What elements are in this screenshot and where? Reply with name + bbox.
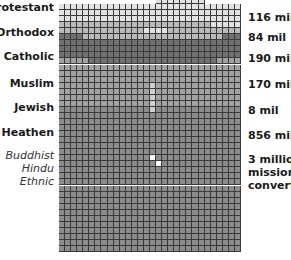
value-catholic: 190 mil: [248, 52, 291, 65]
value-jewish: 8 mil: [248, 104, 279, 117]
label-heathen: Heathen: [2, 126, 54, 139]
label-ethnic: Ethnic: [20, 175, 54, 188]
label-jewish: Jewish: [14, 101, 54, 114]
value-protestant: 116 mil: [248, 11, 291, 24]
waffle-grid: [59, 0, 241, 252]
label-hindu: Hindu: [22, 162, 54, 175]
value-heathen: 856 mil: [248, 129, 291, 142]
value-converts-line2: mission: [248, 166, 291, 179]
label-buddhist: Buddhist: [5, 149, 54, 162]
label-muslim: Muslim: [10, 77, 54, 90]
label-catholic: Catholic: [4, 50, 54, 63]
label-orthodox: Orthodox: [0, 26, 54, 39]
label-protestant: Protestant: [0, 1, 54, 14]
value-converts-line1: 3 million: [248, 153, 291, 166]
value-muslim: 170 mil: [248, 78, 291, 91]
value-converts-line3: converts: [248, 179, 291, 192]
value-orthodox: 84 mil: [248, 31, 286, 44]
waffle-cell: [235, 246, 241, 252]
